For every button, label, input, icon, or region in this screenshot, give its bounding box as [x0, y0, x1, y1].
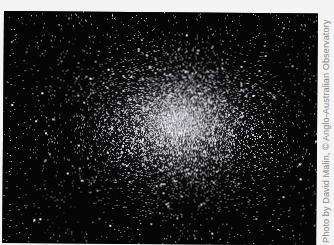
star-field-canvas	[2, 11, 318, 245]
photo-credit: Photo by David Malin, © Anglo-Australian…	[321, 20, 331, 243]
star-cluster-photo	[2, 11, 318, 245]
